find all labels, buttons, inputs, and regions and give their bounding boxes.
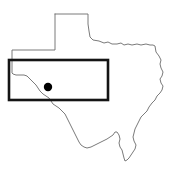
map-canvas <box>0 0 175 175</box>
site-location-dot[interactable] <box>44 83 52 91</box>
texas-map-figure: Texas state outline with study area rect… <box>0 0 175 175</box>
